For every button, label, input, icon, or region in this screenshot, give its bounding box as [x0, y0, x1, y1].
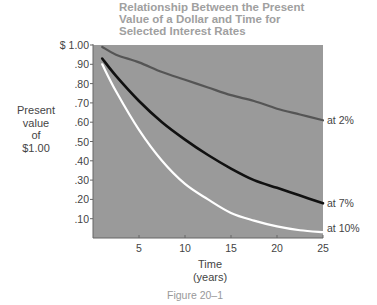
x-axis-label-line: Time	[180, 258, 240, 271]
y-tick-label: .60	[74, 116, 89, 128]
series-label: at 2%	[327, 114, 354, 126]
series-label: at 10%	[327, 222, 360, 234]
y-tick-label: .20	[74, 193, 89, 205]
x-tick-label: 15	[225, 242, 237, 254]
x-axis-label-line: (years)	[180, 271, 240, 284]
y-tick-label: .80	[74, 78, 89, 90]
x-axis-label: Time (years)	[180, 258, 240, 283]
plot-area	[93, 45, 323, 238]
x-tick-label: 25	[317, 242, 329, 254]
y-tick-label: .70	[74, 97, 89, 109]
y-tick-label: $ 1.00	[60, 39, 89, 51]
x-tick-label: 10	[179, 242, 191, 254]
x-tick-label: 5	[136, 242, 142, 254]
series-label: at 7%	[327, 197, 354, 209]
y-tick-label: .30	[74, 174, 89, 186]
y-tick-label: .40	[74, 155, 89, 167]
x-tick-label: 20	[271, 242, 283, 254]
y-tick-label: .10	[74, 213, 89, 225]
y-tick-label: .50	[74, 136, 89, 148]
y-tick-label: .90	[74, 58, 89, 70]
figure-caption: Figure 20–1	[167, 289, 223, 301]
